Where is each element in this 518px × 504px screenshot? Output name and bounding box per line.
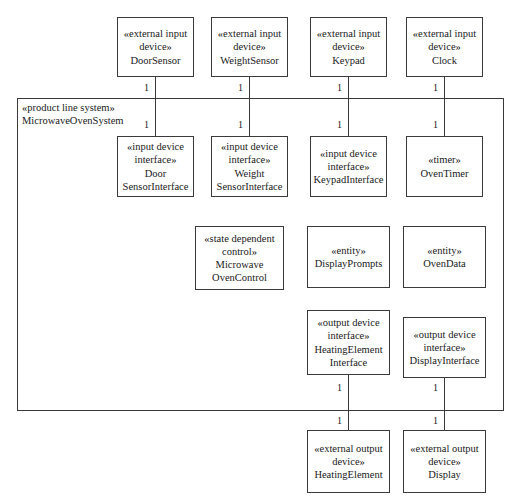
keypad-connector: [348, 77, 349, 136]
name-line: OvenData: [423, 257, 466, 270]
class-box-clock[interactable]: «external inputdevice»Clock: [406, 17, 483, 77]
system-name: MicrowaveOvenSystem: [22, 114, 123, 127]
multiplicity-door-sensor-top: 1: [143, 83, 150, 93]
name-line: DoorSensor: [130, 54, 180, 67]
name-line: Interface: [330, 356, 367, 369]
name-line: SensorInterface: [217, 180, 283, 193]
name-line: device»: [428, 40, 461, 53]
name-line: Weight: [234, 167, 264, 180]
stereotype-line: «output device: [413, 328, 475, 341]
class-box-display-prompts[interactable]: «entity»DisplayPrompts: [307, 226, 390, 288]
name-line: DisplayPrompts: [315, 257, 383, 270]
multiplicity-clock-top: 1: [432, 83, 439, 93]
stereotype-line: «input device: [127, 140, 184, 153]
multiplicity-display-bottom: 1: [432, 416, 439, 426]
multiplicity-heating-element-bottom: 1: [336, 416, 343, 426]
multiplicity-keypad-bottom: 1: [336, 120, 343, 130]
stereotype-line: «timer»: [428, 153, 461, 166]
class-box-oven-data[interactable]: «entity»OvenData: [403, 226, 486, 288]
display-connector: [444, 378, 445, 430]
name-line: interface»: [135, 153, 177, 166]
name-line: SensorInterface: [123, 180, 189, 193]
class-box-keypad[interactable]: «external inputdevice»Keypad: [310, 17, 387, 77]
multiplicity-door-sensor-bottom: 1: [143, 120, 150, 130]
name-line: device»: [332, 40, 365, 53]
name-line: device»: [139, 40, 172, 53]
name-line: WeightSensor: [220, 54, 279, 67]
door-sensor-connector: [155, 77, 156, 136]
name-line: Clock: [432, 54, 457, 67]
class-box-display[interactable]: «external outputdevice»Display: [403, 430, 486, 493]
stereotype-line: «external input: [218, 27, 281, 40]
stereotype-line: «state dependent: [204, 232, 274, 245]
name-line: Keypad: [332, 54, 365, 67]
stereotype-line: «input device: [320, 147, 377, 160]
system-stereotype: «product line system»: [22, 101, 123, 114]
name-line: DisplayInterface: [410, 354, 480, 367]
weight-sensor-connector: [249, 77, 250, 136]
name-line: KeypadInterface: [314, 173, 384, 186]
class-box-heating-element[interactable]: «external outputdevice»HeatingElement: [307, 430, 390, 493]
name-line: HeatingElement: [314, 343, 382, 356]
stereotype-line: «external output: [314, 442, 383, 455]
multiplicity-clock-bottom: 1: [432, 120, 439, 130]
stereotype-line: «external input: [124, 27, 187, 40]
class-box-keypad-interface[interactable]: «input deviceinterface»KeypadInterface: [310, 136, 387, 197]
name-line: HeatingElement: [314, 468, 382, 481]
stereotype-line: «external output: [410, 442, 479, 455]
class-box-display-interface[interactable]: «output deviceinterface»DisplayInterface: [403, 317, 486, 378]
name-line: Door: [145, 167, 167, 180]
stereotype-line: «input device: [221, 140, 278, 153]
class-box-oven-timer[interactable]: «timer»OvenTimer: [406, 136, 483, 197]
class-box-heating-element-interface[interactable]: «output deviceinterface»HeatingElementIn…: [307, 310, 390, 375]
name-line: interface»: [229, 153, 271, 166]
name-line: device»: [332, 455, 365, 468]
name-line: interface»: [424, 341, 466, 354]
name-line: control»: [222, 245, 257, 258]
product-line-system-label: «product line system» MicrowaveOvenSyste…: [22, 101, 123, 128]
name-line: interface»: [328, 160, 370, 173]
class-box-microwave-oven-control[interactable]: «state dependentcontrol»MicrowaveOvenCon…: [195, 226, 284, 290]
stereotype-line: «external input: [413, 27, 476, 40]
name-line: Microwave: [216, 258, 264, 271]
name-line: device»: [428, 455, 461, 468]
class-box-weight-sensor-interface[interactable]: «input deviceinterface»WeightSensorInter…: [211, 136, 288, 197]
name-line: interface»: [328, 329, 370, 342]
multiplicity-heating-element-top: 1: [336, 383, 343, 393]
heating-element-connector: [348, 375, 349, 430]
stereotype-line: «output device: [317, 316, 379, 329]
multiplicity-keypad-top: 1: [336, 83, 343, 93]
diagram-canvas: «product line system» MicrowaveOvenSyste…: [0, 0, 518, 504]
clock-connector: [444, 77, 445, 136]
name-line: device»: [233, 40, 266, 53]
stereotype-line: «entity»: [331, 244, 365, 257]
stereotype-line: «entity»: [427, 244, 461, 257]
class-box-door-sensor-interface[interactable]: «input deviceinterface»DoorSensorInterfa…: [117, 136, 194, 197]
name-line: OvenTimer: [420, 167, 468, 180]
class-box-door-sensor[interactable]: «external inputdevice»DoorSensor: [117, 17, 194, 77]
multiplicity-display-top: 1: [432, 383, 439, 393]
name-line: Display: [428, 468, 461, 481]
stereotype-line: «external input: [317, 27, 380, 40]
class-box-weight-sensor[interactable]: «external inputdevice»WeightSensor: [211, 17, 288, 77]
name-line: OvenControl: [212, 271, 267, 284]
multiplicity-weight-sensor-bottom: 1: [237, 120, 244, 130]
multiplicity-weight-sensor-top: 1: [237, 83, 244, 93]
